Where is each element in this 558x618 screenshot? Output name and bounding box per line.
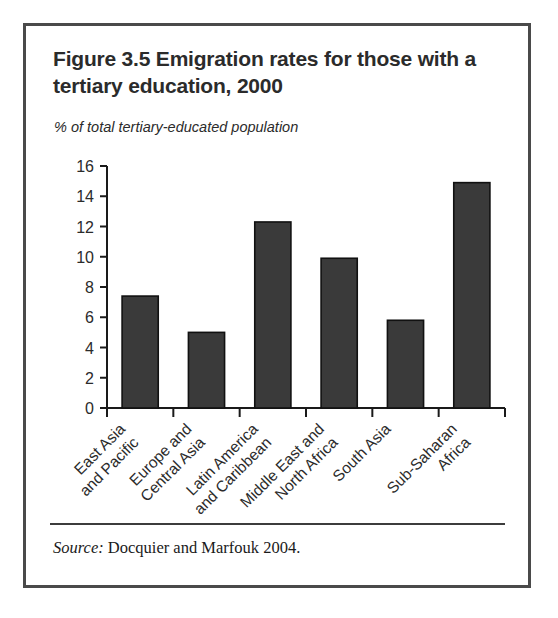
figure-panel: Figure 3.5 Emigration rates for those wi… bbox=[23, 23, 531, 588]
x-tick-label: South Asia bbox=[329, 420, 394, 485]
bar-chart-svg: 0246810121416 East Asiaand PacificEurope… bbox=[26, 26, 528, 585]
source-note: Source: Docquier and Marfouk 2004. bbox=[53, 538, 300, 558]
y-tick-label: 10 bbox=[76, 249, 94, 266]
source-label: Source: bbox=[53, 538, 104, 557]
source-divider bbox=[50, 523, 505, 525]
y-tick-label: 2 bbox=[85, 370, 94, 387]
x-tick-label-line: South Asia bbox=[329, 420, 394, 485]
y-tick-label: 4 bbox=[85, 340, 94, 357]
y-tick-label: 6 bbox=[85, 309, 94, 326]
y-tick-label: 12 bbox=[76, 219, 94, 236]
x-tick-label: East Asiaand Pacific bbox=[63, 420, 142, 499]
y-axis: 0246810121416 bbox=[76, 158, 107, 417]
bar bbox=[321, 258, 357, 408]
x-axis bbox=[107, 408, 505, 417]
y-tick-label: 16 bbox=[76, 158, 94, 175]
bar bbox=[255, 222, 291, 408]
x-tick-labels: East Asiaand PacificEurope andCentral As… bbox=[63, 420, 474, 524]
x-tick-label: Sub-SaharanAfrica bbox=[383, 420, 473, 510]
bar bbox=[122, 296, 158, 408]
bar bbox=[454, 183, 490, 408]
chart-plot-area: 0246810121416 East Asiaand PacificEurope… bbox=[26, 26, 528, 585]
source-citation: Docquier and Marfouk 2004. bbox=[104, 538, 301, 557]
bar-series bbox=[122, 183, 490, 408]
bar bbox=[188, 332, 224, 408]
y-tick-label: 0 bbox=[85, 400, 94, 417]
bar bbox=[387, 320, 423, 408]
y-tick-label: 8 bbox=[85, 279, 94, 296]
y-tick-label: 14 bbox=[76, 188, 94, 205]
